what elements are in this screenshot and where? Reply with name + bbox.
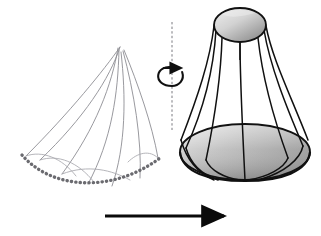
- figure-canvas: [0, 0, 321, 236]
- surface-of-revolution-figure: Surface of revolution generated by revol…: [0, 0, 321, 236]
